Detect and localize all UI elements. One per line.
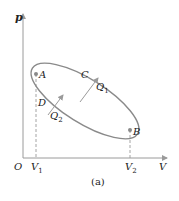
v2-tick-label: V2	[125, 161, 137, 175]
pv-diagram: p O V V1 V2 A B C D Q1 Q2 (a)	[0, 0, 179, 201]
v-axis-label: V	[159, 161, 168, 172]
point-b-label: B	[132, 126, 140, 137]
point-a-marker	[34, 72, 38, 76]
point-b-marker	[128, 128, 132, 132]
figure-caption: (a)	[91, 176, 105, 187]
q1-label: Q1	[96, 81, 109, 95]
point-a-label: A	[38, 69, 46, 80]
origin-label: O	[14, 161, 22, 172]
p-axis-label: p	[15, 11, 23, 24]
point-c-label: C	[81, 69, 89, 80]
point-d-label: D	[37, 97, 46, 108]
v1-tick-label: V1	[31, 161, 43, 175]
q2-label: Q2	[50, 110, 63, 124]
